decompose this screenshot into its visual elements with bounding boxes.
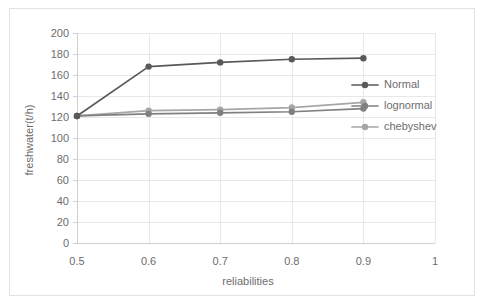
y-tick-label: 0 <box>63 237 69 249</box>
y-axis-title: freshwater(t/h) <box>23 105 35 176</box>
data-point-normal <box>217 59 223 65</box>
x-tick-label: 1 <box>432 255 438 267</box>
y-tick-label: 160 <box>51 69 69 81</box>
y-axis-tick-labels: 020406080100120140160180200 <box>51 27 69 249</box>
data-point-normal <box>289 56 295 62</box>
data-point-normal <box>74 113 80 119</box>
legend-marker-lognormal <box>362 103 368 109</box>
y-tick-label: 80 <box>57 153 69 165</box>
y-tick-label: 200 <box>51 27 69 39</box>
x-axis-tick-labels: 0.50.60.70.80.91 <box>69 255 438 267</box>
data-point-normal <box>360 55 366 61</box>
legend-label-chebyshev: chebyshev <box>384 120 437 132</box>
legend-marker-normal <box>362 82 368 88</box>
y-tick-label: 120 <box>51 111 69 123</box>
legend: Normallognormalchebyshev <box>352 78 437 132</box>
legend-label-lognormal: lognormal <box>384 99 432 111</box>
data-point-lognormal <box>217 110 223 116</box>
data-point-normal <box>145 63 151 69</box>
x-tick-label: 0.6 <box>141 255 156 267</box>
x-tick-label: 0.5 <box>69 255 84 267</box>
y-tick-label: 100 <box>51 132 69 144</box>
plot-area-wrapper: 020406080100120140160180200 0.50.60.70.8… <box>0 0 484 307</box>
line-chart: 020406080100120140160180200 0.50.60.70.8… <box>0 0 484 307</box>
x-tick-label: 0.9 <box>356 255 371 267</box>
y-tick-label: 60 <box>57 174 69 186</box>
x-tick-label: 0.7 <box>213 255 228 267</box>
y-tick-label: 20 <box>57 216 69 228</box>
gridlines <box>77 33 436 244</box>
x-axis-title: reliabilities <box>222 275 274 287</box>
data-point-lognormal <box>145 111 151 117</box>
y-tick-label: 40 <box>57 195 69 207</box>
legend-label-normal: Normal <box>384 78 419 90</box>
y-tick-label: 180 <box>51 48 69 60</box>
chart-figure: 020406080100120140160180200 0.50.60.70.8… <box>0 0 484 307</box>
data-point-lognormal <box>289 109 295 115</box>
legend-marker-chebyshev <box>362 124 368 130</box>
x-tick-label: 0.8 <box>284 255 299 267</box>
y-tick-label: 140 <box>51 90 69 102</box>
